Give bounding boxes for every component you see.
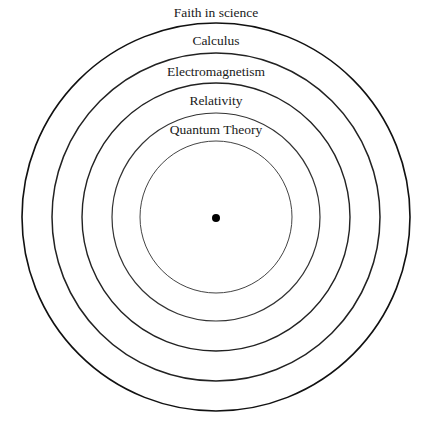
ring-label: Faith in science: [174, 5, 259, 20]
concentric-circles-diagram: Faith in scienceCalculusElectromagnetism…: [0, 0, 429, 432]
center-dot: [212, 214, 220, 222]
ring-label: Electromagnetism: [167, 64, 266, 79]
ring-label: Relativity: [189, 93, 242, 108]
ring-label: Quantum Theory: [170, 122, 263, 137]
ring-label: Calculus: [192, 33, 239, 48]
